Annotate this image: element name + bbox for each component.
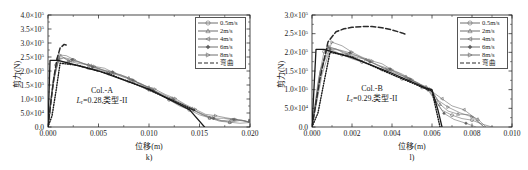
annotation-l: Col.-B Lr=0.29,类型-II [330, 84, 414, 104]
legend-label: 8m/s [219, 51, 233, 59]
legend-marker-circle [459, 19, 481, 27]
legend-item: 4m/s [459, 35, 505, 43]
legend-label: 6m/s [481, 43, 495, 51]
data-point-marker [468, 45, 472, 49]
legend-item: 2m/s [197, 27, 243, 35]
legend-label: 弯曲 [219, 59, 234, 67]
x-tick-label: 0.010 [504, 129, 521, 138]
legend-label: 弯曲 [481, 59, 496, 67]
y-tick-label: 1.5×105 [284, 67, 308, 76]
legend-marker-triangle-up [459, 27, 481, 35]
legend-label: 2m/s [481, 27, 495, 35]
legend-label: 4m/s [481, 35, 495, 43]
legend-item: 弯曲 [197, 59, 243, 67]
x-tick-label: 0.006 [424, 129, 441, 138]
legend-item: 6m/s [459, 43, 505, 51]
figure-container: 0.05.0×1041.0×1051.5×1052.0×1052.5×1053.… [0, 0, 528, 170]
annot-k-value: =0.28,类型-II [83, 96, 128, 105]
y-tick-label: 5.0×104 [284, 104, 308, 113]
y-tick-label: 1.5×105 [20, 81, 44, 90]
x-tick-label: 0.004 [384, 129, 401, 138]
x-tick-label: 0.000 [304, 129, 321, 138]
x-tick-label: 0.010 [141, 129, 158, 138]
legend-label: 0.5m/s [481, 19, 500, 27]
chart-panel-k: 0.05.0×1041.0×1051.5×1052.0×1052.5×1053.… [0, 0, 264, 170]
legend-marker-line [459, 59, 481, 67]
legend-marker-triangle-up [197, 27, 219, 35]
subcaption-l: l) [392, 153, 432, 162]
legend-k: 0.5m/s2m/s4m/s6m/s8m/s弯曲 [195, 17, 246, 69]
annotation-l-line2: Lr=0.29,类型-II [330, 94, 414, 104]
legend-item: 2m/s [459, 27, 505, 35]
legend-label: 0.5m/s [219, 19, 238, 27]
x-axis-label-k: 位移(m) [109, 140, 189, 151]
legend-label: 6m/s [219, 43, 233, 51]
legend-marker-circle [197, 19, 219, 27]
legend-marker-triangle-right [197, 51, 219, 59]
legend-marker-triangle-left [197, 35, 219, 43]
legend-label: 8m/s [481, 51, 495, 59]
y-tick-label: 4.0×105 [20, 11, 44, 20]
legend-marker-line [197, 59, 219, 67]
legend-marker-diamond-filled [459, 43, 481, 51]
data-point-marker [206, 45, 210, 49]
x-tick-label: 0.005 [90, 129, 107, 138]
y-tick-label: 2.5×105 [284, 29, 308, 38]
y-tick-label: 2.0×105 [284, 48, 308, 57]
y-tick-label: 1.0×105 [20, 95, 44, 104]
legend-item: 弯曲 [459, 59, 505, 67]
y-tick-label: 1.0×105 [284, 85, 308, 94]
legend-item: 6m/s [197, 43, 243, 51]
annotation-k-line1: Col.-A [62, 86, 142, 96]
y-tick-label: 3.0×105 [20, 39, 44, 48]
data-point-marker [465, 122, 468, 125]
legend-item: 0.5m/s [197, 19, 243, 27]
x-tick-label: 0.000 [40, 129, 57, 138]
legend-label: 4m/s [219, 35, 233, 43]
legend-marker-triangle-left [459, 35, 481, 43]
legend-item: 4m/s [197, 35, 243, 43]
subcaption-k: k) [129, 153, 169, 162]
annotation-k-line2: Lr=0.28,类型-II [62, 96, 142, 106]
legend-item: 8m/s [459, 51, 505, 59]
annotation-k: Col.-A Lr=0.28,类型-II [62, 86, 142, 106]
legend-item: 0.5m/s [459, 19, 505, 27]
y-tick-label: 3.5×105 [20, 25, 44, 34]
y-axis-label-l: 剪力(N) [275, 61, 286, 88]
y-tick-label: 5.0×104 [20, 109, 44, 118]
x-tick-label: 0.002 [344, 129, 361, 138]
annot-l-value: =0.29,类型-II [353, 94, 398, 103]
legend-item: 8m/s [197, 51, 243, 59]
y-tick-label: 3.0×105 [284, 11, 308, 20]
x-tick-label: 0.020 [242, 129, 259, 138]
legend-marker-triangle-right [459, 51, 481, 59]
series-line [312, 27, 406, 127]
y-tick-label: 2.5×105 [20, 53, 44, 62]
x-tick-label: 0.015 [191, 129, 208, 138]
legend-marker-diamond-filled [197, 43, 219, 51]
chart-panel-l: 0.05.0×1041.0×1051.5×1052.0×1052.5×1053.… [264, 0, 528, 170]
y-axis-label-k: 剪力(N) [11, 61, 22, 88]
annotation-l-line1: Col.-B [330, 84, 414, 94]
x-axis-label-l: 位移(m) [372, 140, 452, 151]
x-tick-label: 0.008 [464, 129, 481, 138]
legend-l: 0.5m/s2m/s4m/s6m/s8m/s弯曲 [457, 17, 508, 69]
legend-label: 2m/s [219, 27, 233, 35]
y-tick-label: 2.0×105 [20, 67, 44, 76]
